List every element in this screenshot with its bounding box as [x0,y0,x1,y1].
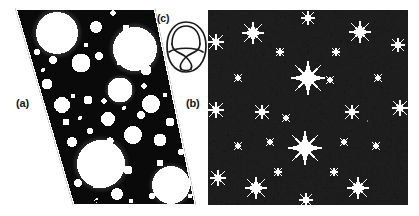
figure-svg [0,0,419,216]
panel-label-c: (c) [157,13,169,24]
panel-label-a: (a) [16,98,29,109]
panel-label-b: (b) [186,98,199,109]
figure-canvas: (a) (b) (c) [0,0,419,216]
panel-b-fractal [204,6,412,209]
